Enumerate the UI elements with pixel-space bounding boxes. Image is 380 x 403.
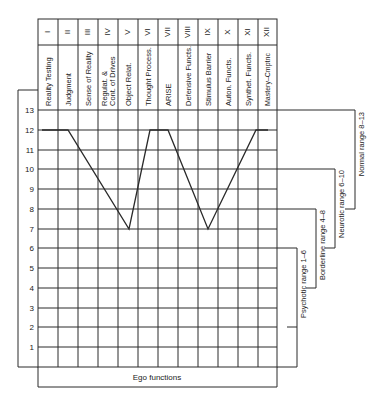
- y-tick-3: 3: [30, 304, 35, 313]
- numeral-10: X: [223, 29, 232, 35]
- numeral-2: II: [63, 30, 72, 34]
- numeral-5: V: [123, 29, 132, 35]
- y-tick-labels: 1 2 3 4 5 6 7 8 9 10 11 12 13: [25, 106, 34, 352]
- col-name-sense-of-reality: Sense of Reality: [84, 51, 93, 106]
- y-tick-10: 10: [25, 165, 34, 174]
- col-name-arise: ARISE: [164, 83, 173, 106]
- column-numerals: I II III IV V VI VII VIII IX X XI XII: [43, 26, 271, 38]
- y-tick-7: 7: [30, 225, 35, 234]
- y-tick-6: 6: [30, 244, 35, 253]
- profile-line: [42, 130, 268, 229]
- col-name-defensive-functs: Defensive Functs.: [184, 46, 193, 106]
- col-name-cont-of-drives: Cont. of Drives: [108, 56, 117, 106]
- y-tick-4: 4: [30, 284, 35, 293]
- numeral-8: VIII: [183, 26, 192, 38]
- y-tick-2: 2: [30, 323, 35, 332]
- numeral-1: I: [43, 31, 52, 33]
- normal-range-label: Normal range 8–13: [357, 112, 366, 176]
- psychotic-range-label: Psychotic range 1–6: [299, 250, 308, 318]
- numeral-11: XI: [243, 28, 252, 36]
- col-name-reality-testing: Reality Testing: [44, 57, 53, 106]
- ego-functions-chart: I II III IV V VI VII VIII IX X XI XII Re…: [0, 0, 380, 403]
- numeral-9: IX: [203, 28, 212, 36]
- col-name-stimulus-barrier: Stimulus Barrier: [204, 52, 213, 106]
- col-name-synthet-functs: Synthet. Functs.: [244, 52, 253, 106]
- numeral-12: XII: [262, 27, 271, 37]
- neurotic-range-label: Neurotic range 6–10: [337, 170, 346, 238]
- numeral-3: III: [83, 29, 92, 36]
- range-labels: Normal range 8–13 Neurotic range 6–10 Bo…: [299, 112, 366, 318]
- numeral-4: IV: [103, 28, 112, 36]
- y-tick-9: 9: [30, 185, 35, 194]
- y-tick-1: 1: [30, 343, 35, 352]
- y-tick-11: 11: [26, 146, 35, 155]
- col-name-judgment: Judgment: [64, 72, 73, 106]
- y-tick-13: 13: [25, 106, 34, 115]
- y-tick-5: 5: [30, 264, 35, 273]
- y-tick-12: 12: [25, 126, 34, 135]
- numeral-7: VII: [163, 27, 172, 37]
- x-axis-label: Ego functions: [133, 373, 181, 382]
- borderline-range-label: Borderline range 4–8: [318, 210, 327, 280]
- col-name-thought-process: Thought Process.: [144, 47, 153, 106]
- col-name-object-relat: Object Relat.: [124, 63, 133, 106]
- col-name-auton-functs: Auton. Functs.: [224, 58, 233, 106]
- numeral-6: VI: [143, 28, 152, 36]
- psychotic-range-bracket: [277, 248, 297, 367]
- y-tick-8: 8: [30, 205, 35, 214]
- col-name-mastery: Mastery–Cmptnc: [264, 53, 272, 106]
